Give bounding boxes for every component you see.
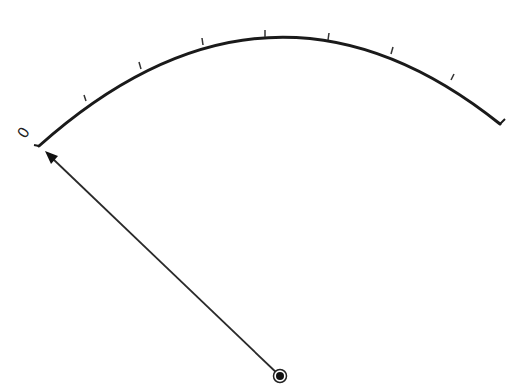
- tick-2: [139, 62, 141, 69]
- tick-6: [391, 47, 393, 54]
- gauge-needle: [45, 151, 280, 376]
- tick-7: [451, 74, 454, 80]
- gauge-ticks: [84, 30, 454, 101]
- tick-5: [328, 33, 329, 40]
- gauge-diagram: 0: [0, 0, 521, 389]
- gauge-pivot: [274, 370, 287, 383]
- tick-1: [84, 95, 86, 101]
- zero-label: 0: [13, 124, 33, 142]
- tick-3: [202, 38, 203, 45]
- gauge-scale-arc: [34, 37, 505, 146]
